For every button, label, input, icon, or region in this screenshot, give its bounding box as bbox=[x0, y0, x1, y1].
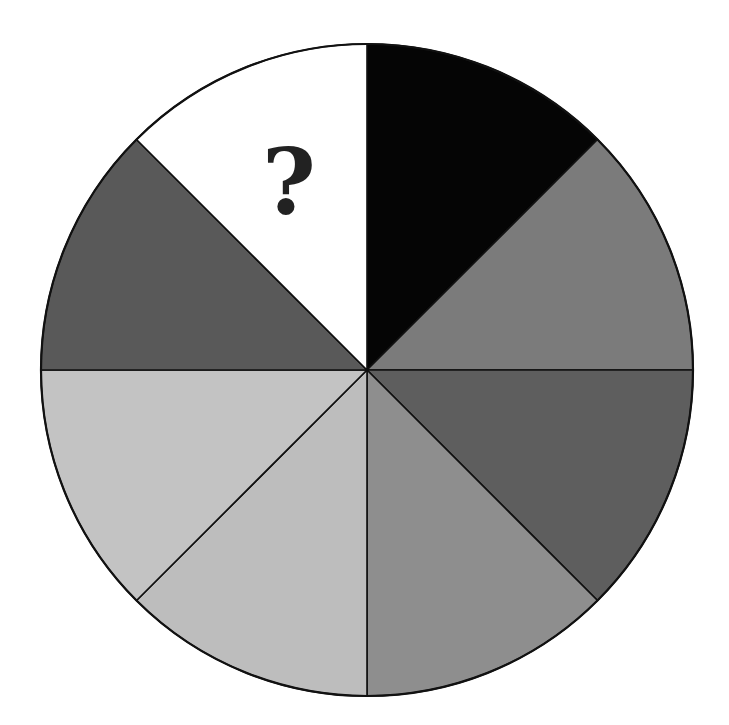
segmented-wheel-diagram: ? bbox=[0, 0, 729, 725]
wheel-segments bbox=[41, 44, 693, 696]
missing-segment-question-mark: ? bbox=[262, 128, 316, 236]
